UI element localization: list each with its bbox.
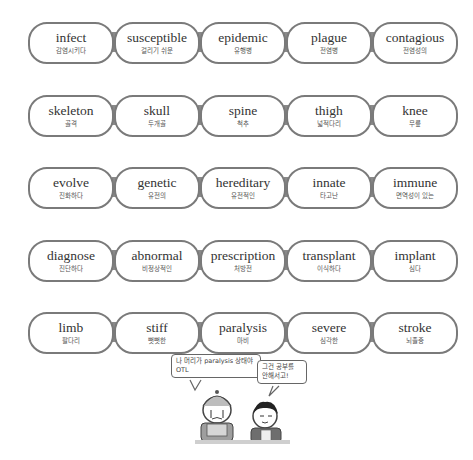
english-word: stiff — [146, 320, 168, 335]
english-word: hereditary — [216, 175, 271, 190]
korean-meaning: 진단하다 — [59, 265, 83, 274]
korean-meaning: 전염병 — [320, 47, 338, 56]
korean-meaning: 타고난 — [320, 192, 338, 201]
word-pill: skeleton 골격 — [28, 95, 114, 137]
english-word: plague — [311, 30, 347, 45]
english-word: infect — [56, 30, 87, 45]
english-word: paralysis — [219, 320, 267, 335]
word-row-body: skeleton 골격 skull 두개골 spine 척추 thigh 넓적다… — [28, 95, 462, 135]
korean-meaning: 유행병 — [234, 47, 252, 56]
speech-text: 나 머리가 paralysis 상태야 OTL — [176, 357, 253, 374]
korean-meaning: 뇌졸중 — [406, 337, 424, 346]
word-row-treatment: diagnose 진단하다 abnormal 비정상적인 prescriptio… — [28, 240, 462, 280]
korean-meaning: 넓적다리 — [317, 120, 341, 129]
english-word: innate — [313, 175, 346, 190]
english-word: genetic — [138, 175, 177, 190]
english-word: limb — [59, 320, 84, 335]
english-word: knee — [402, 103, 427, 118]
korean-meaning: 걸리기 쉬운 — [141, 47, 173, 56]
word-pill: transplant 이식하다 — [286, 240, 372, 282]
korean-meaning: 마비 — [237, 337, 249, 346]
word-pill: plague 전염병 — [286, 22, 372, 64]
word-pill: thigh 넓적다리 — [286, 95, 372, 137]
word-pill: spine 척추 — [200, 95, 286, 137]
english-word: diagnose — [47, 248, 95, 263]
word-row-symptoms: limb 팔다리 stiff 뻣뻣한 paralysis 마비 severe 심… — [28, 312, 462, 352]
word-pill: stiff 뻣뻣한 — [114, 312, 200, 354]
korean-meaning: 팔다리 — [62, 337, 80, 346]
speech-text: 그건 공부를 안해서고! — [262, 363, 294, 380]
english-word: abnormal — [132, 248, 183, 263]
word-pill: hereditary 유전적인 — [200, 167, 286, 209]
word-pill: abnormal 비정상적인 — [114, 240, 200, 282]
english-word: spine — [229, 103, 258, 118]
word-pill: immune 면역성이 있는 — [372, 167, 458, 209]
english-word: transplant — [302, 248, 355, 263]
korean-meaning: 뻣뻣한 — [148, 337, 166, 346]
word-pill: evolve 진화하다 — [28, 167, 114, 209]
english-word: thigh — [315, 103, 343, 118]
korean-meaning: 이식하다 — [317, 265, 341, 274]
korean-meaning: 면역성이 있는 — [396, 192, 434, 201]
korean-meaning: 전염성의 — [403, 47, 427, 56]
cartoon-illustration: 나 머리가 paralysis 상태야 OTL 그건 공부를 안해서고! — [165, 352, 315, 447]
word-pill: infect 감염시키다 — [28, 22, 114, 64]
word-pill: severe 심각한 — [286, 312, 372, 354]
korean-meaning: 유전적인 — [231, 192, 255, 201]
korean-meaning: 진화하다 — [59, 192, 83, 201]
korean-meaning: 유전의 — [148, 192, 166, 201]
word-row-genetics: evolve 진화하다 genetic 유전의 hereditary 유전적인 … — [28, 167, 462, 207]
word-pill: epidemic 유행병 — [200, 22, 286, 64]
korean-meaning: 두개골 — [148, 120, 166, 129]
korean-meaning: 처방전 — [234, 265, 252, 274]
word-pill: contagious 전염성의 — [372, 22, 458, 64]
english-word: immune — [393, 175, 437, 190]
english-word: implant — [394, 248, 435, 263]
word-pill: prescription 처방전 — [200, 240, 286, 282]
english-word: evolve — [53, 175, 89, 190]
word-pill: genetic 유전의 — [114, 167, 200, 209]
word-pill: paralysis 마비 — [200, 312, 286, 354]
english-word: skeleton — [49, 103, 94, 118]
korean-meaning: 비정상적인 — [142, 265, 172, 274]
english-word: contagious — [386, 30, 445, 45]
word-pill: limb 팔다리 — [28, 312, 114, 354]
korean-meaning: 감염시키다 — [56, 47, 86, 56]
korean-meaning: 골격 — [65, 120, 77, 129]
english-word: susceptible — [127, 30, 187, 45]
speech-bubble-left: 나 머리가 paralysis 상태야 OTL — [171, 354, 261, 378]
word-pill: susceptible 걸리기 쉬운 — [114, 22, 200, 64]
word-pill: knee 무릎 — [372, 95, 458, 137]
korean-meaning: 무릎 — [409, 120, 421, 129]
korean-meaning: 척추 — [237, 120, 249, 129]
english-word: severe — [312, 320, 346, 335]
word-pill: implant 심다 — [372, 240, 458, 282]
word-pill: stroke 뇌졸중 — [372, 312, 458, 354]
word-pill: diagnose 진단하다 — [28, 240, 114, 282]
korean-meaning: 심각한 — [320, 337, 338, 346]
korean-meaning: 심다 — [409, 265, 421, 274]
word-pill: innate 타고난 — [286, 167, 372, 209]
word-row-disease: infect 감염시키다 susceptible 걸리기 쉬운 epidemic… — [28, 22, 462, 62]
word-pill: skull 두개골 — [114, 95, 200, 137]
english-word: stroke — [399, 320, 432, 335]
speech-bubble-right: 그건 공부를 안해서고! — [257, 360, 307, 384]
english-word: epidemic — [218, 30, 267, 45]
english-word: prescription — [211, 248, 275, 263]
english-word: skull — [144, 103, 170, 118]
